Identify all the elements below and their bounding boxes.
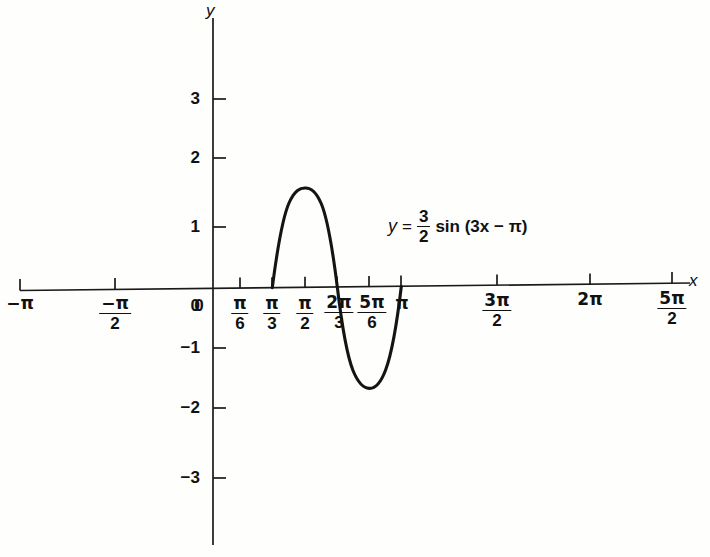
fraction-denominator: 6 bbox=[231, 313, 248, 332]
fraction: π 6 bbox=[231, 295, 248, 333]
x-tick-label-pi-over-2: π 2 bbox=[296, 295, 313, 333]
fraction: −π 2 bbox=[99, 295, 131, 333]
fraction-denominator: 2 bbox=[99, 313, 131, 332]
figure-canvas: y x 3 2 1 0 −1 −2 −3 −π −π 2 0 π 6 π 3 π… bbox=[0, 0, 710, 557]
x-tick-text-2pi: 2π bbox=[577, 289, 602, 309]
fraction-numerator: 2π bbox=[324, 294, 353, 312]
fraction-numerator: 5π bbox=[657, 290, 686, 308]
fraction-numerator: π bbox=[263, 295, 280, 313]
fraction-denominator: 2 bbox=[657, 308, 686, 327]
fraction: 3π 2 bbox=[482, 292, 511, 330]
y-tick-label-2: 2 bbox=[178, 149, 200, 166]
x-tick-label-zero: 0 bbox=[194, 297, 203, 314]
fraction: π 2 bbox=[296, 295, 313, 333]
x-tick-label-5pi-over-2: 5π 2 bbox=[657, 290, 686, 328]
x-tick-text-neg-pi: −π bbox=[6, 293, 34, 313]
x-tick-label-pi-over-3: π 3 bbox=[263, 295, 280, 333]
y-tick-label-neg2: −2 bbox=[170, 399, 200, 416]
x-tick-label-neg-pi-over-2: −π 2 bbox=[99, 295, 131, 333]
fraction: 5π 2 bbox=[657, 290, 686, 328]
fraction-numerator: 3π bbox=[482, 292, 511, 310]
x-tick-label-5pi-over-6: 5π 6 bbox=[357, 294, 386, 332]
fraction-denominator: 2 bbox=[417, 226, 430, 245]
y-axis-label: y bbox=[206, 2, 215, 19]
x-tick-label-3pi-over-2: 3π 2 bbox=[482, 292, 511, 330]
x-tick-label-neg-pi: −π bbox=[6, 295, 34, 312]
fraction-denominator: 6 bbox=[357, 312, 386, 331]
y-tick-label-3: 3 bbox=[178, 90, 200, 107]
fraction-numerator: 5π bbox=[357, 294, 386, 312]
fraction: π 3 bbox=[263, 295, 280, 333]
y-tick-label-neg3: −3 bbox=[170, 469, 200, 486]
fraction: 2π 3 bbox=[324, 294, 353, 332]
equation-lhs: y bbox=[388, 216, 397, 237]
fraction-numerator: π bbox=[296, 295, 313, 313]
equation-function-text: sin (3x − π) bbox=[435, 217, 527, 237]
x-tick-label-pi: π bbox=[395, 295, 408, 312]
x-tick-label-2pi-over-3: 2π 3 bbox=[324, 294, 353, 332]
y-tick-label-neg1: −1 bbox=[170, 339, 200, 356]
fraction-denominator: 2 bbox=[482, 310, 511, 329]
fraction-denominator: 3 bbox=[324, 312, 353, 331]
fraction-denominator: 2 bbox=[296, 313, 313, 332]
x-tick-text-pi: π bbox=[395, 293, 408, 313]
x-tick-label-2pi: 2π bbox=[577, 291, 602, 308]
y-tick-label-1: 1 bbox=[178, 218, 200, 235]
x-axis-label: x bbox=[689, 272, 698, 289]
fraction-numerator: 3 bbox=[417, 208, 430, 226]
x-axis-ticks bbox=[20, 272, 672, 291]
fraction-denominator: 3 bbox=[263, 313, 280, 332]
equation-annotation: y = 3 2 sin (3x − π) bbox=[388, 208, 527, 246]
fraction-numerator: −π bbox=[99, 295, 131, 313]
fraction: 5π 6 bbox=[357, 294, 386, 332]
equation-coefficient-fraction: 3 2 bbox=[417, 208, 430, 246]
equation-equals-sign: = bbox=[402, 217, 412, 237]
graph-plot-area bbox=[0, 0, 710, 557]
x-tick-label-pi-over-6: π 6 bbox=[231, 295, 248, 333]
fraction-numerator: π bbox=[231, 295, 248, 313]
